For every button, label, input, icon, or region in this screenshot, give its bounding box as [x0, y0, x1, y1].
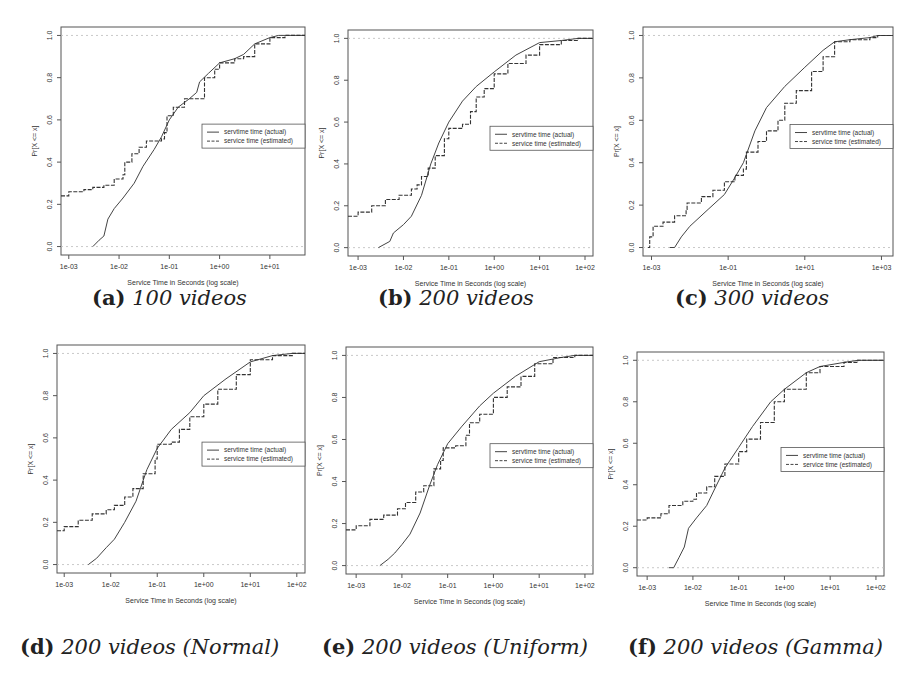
chart-f: 0.00.20.40.60.81.01e-031e-021e-011e+001e… — [608, 330, 918, 630]
y-tick-label: 1.0 — [333, 33, 340, 43]
x-tick-label: 1e+00 — [210, 263, 230, 270]
legend: servtime time (actual)service time (esti… — [490, 126, 593, 150]
legend: servtime time (actual)service time (esti… — [202, 442, 305, 466]
series-estimated — [346, 355, 593, 530]
y-axis-label: Pr[X <= x] — [27, 443, 35, 474]
caption-c: (c) 300 videos — [675, 285, 829, 310]
caption-label: (d) — [20, 634, 55, 659]
caption-text: 200 videos (Gamma) — [664, 635, 883, 659]
caption-label: (b) — [378, 285, 413, 310]
y-tick-label: 0.0 — [333, 243, 340, 253]
legend-entry: servtime time (actual) — [224, 128, 286, 136]
y-tick-label: 0.6 — [331, 435, 338, 445]
caption-label: (f) — [628, 634, 657, 659]
y-axis-label: Pr[X <= x] — [613, 126, 621, 157]
x-tick-label: 1e-01 — [439, 582, 457, 589]
y-tick-label: 0.6 — [333, 117, 340, 127]
figure: 0.00.20.40.60.81.01e-031e-021e-011e+001e… — [0, 0, 918, 683]
y-tick-label: 0.6 — [622, 438, 629, 448]
y-tick-label: 0.4 — [42, 475, 49, 485]
y-tick-label: 0.0 — [622, 563, 629, 573]
x-tick-label: 1e-03 — [60, 263, 78, 270]
y-tick-label: 0.0 — [628, 243, 635, 253]
x-tick-label: 1e+00 — [484, 264, 504, 271]
y-tick-label: 0.4 — [331, 477, 338, 487]
y-tick-label: 1.0 — [331, 350, 338, 360]
y-tick-label: 0.4 — [628, 158, 635, 168]
x-tick-label: 1e+03 — [872, 264, 892, 271]
caption-label: (e) — [322, 634, 355, 659]
y-tick-label: 0.8 — [46, 73, 53, 83]
legend-entry: service time (estimated) — [512, 140, 581, 148]
x-tick-label: 1e-03 — [349, 264, 367, 271]
legend-entry: service time (estimated) — [224, 137, 293, 145]
series-estimated — [61, 35, 305, 196]
x-tick-label: 1e+00 — [194, 581, 214, 588]
legend: servtime time (actual)service time (esti… — [490, 444, 593, 468]
caption-d: (d) 200 videos (Normal) — [20, 634, 279, 659]
legend-entry: servtime time (actual) — [812, 129, 874, 137]
caption-text: 200 videos (Uniform) — [362, 635, 588, 659]
legend-entry: servtime time (actual) — [224, 446, 286, 454]
y-tick-label: 0.8 — [628, 73, 635, 83]
x-tick-label: 1e+01 — [820, 584, 840, 591]
caption-f: (f) 200 videos (Gamma) — [628, 634, 883, 659]
legend-entry: service time (estimated) — [512, 457, 581, 465]
y-tick-label: 0.8 — [42, 391, 49, 401]
caption-text: 100 videos — [132, 286, 247, 310]
x-tick-label: 1e+01 — [529, 582, 549, 589]
x-tick-label: 1e-03 — [347, 582, 365, 589]
x-tick-label: 1e+01 — [240, 581, 260, 588]
chart-c: 0.00.20.40.60.81.01e-031e-011e+011e+03Se… — [608, 0, 918, 300]
y-axis-label: Pr[X <= x] — [318, 127, 326, 158]
y-tick-label: 0.8 — [622, 397, 629, 407]
legend-entry: service time (estimated) — [803, 461, 872, 469]
x-tick-label: 1e+00 — [484, 582, 504, 589]
y-tick-label: 1.0 — [628, 31, 635, 41]
y-axis-label: Pr[X <= x] — [608, 448, 615, 479]
caption-label: (c) — [675, 285, 708, 310]
x-tick-label: 1e-02 — [393, 582, 411, 589]
caption-text: 200 videos (Normal) — [61, 635, 279, 659]
y-tick-label: 0.2 — [42, 517, 49, 527]
y-tick-label: 1.0 — [46, 30, 53, 40]
x-tick-label: 1e+00 — [775, 584, 795, 591]
legend-entry: servtime time (actual) — [803, 452, 865, 460]
x-axis-label: Service Time in Seconds (log scale) — [705, 600, 816, 608]
legend-entry: servtime time (actual) — [512, 448, 574, 456]
caption-a: (a) 100 videos — [92, 285, 247, 310]
chart-d: 0.00.20.40.60.81.01e-031e-021e-011e+001e… — [0, 330, 310, 630]
x-tick-label: 1e-03 — [643, 264, 661, 271]
x-tick-label: 1e-01 — [719, 264, 737, 271]
x-tick-label: 1e+02 — [575, 582, 595, 589]
y-tick-label: 0.0 — [331, 561, 338, 571]
legend-entry: service time (estimated) — [224, 455, 293, 463]
y-tick-label: 0.6 — [46, 115, 53, 125]
x-axis-label: Service Time in Seconds (log scale) — [414, 598, 525, 606]
x-tick-label: 1e-03 — [638, 584, 656, 591]
x-tick-label: 1e+01 — [530, 264, 550, 271]
y-tick-label: 0.4 — [333, 159, 340, 169]
y-tick-label: 0.2 — [628, 200, 635, 210]
y-tick-label: 0.2 — [622, 521, 629, 531]
legend-entry: service time (estimated) — [812, 138, 881, 146]
x-tick-label: 1e-03 — [55, 581, 73, 588]
y-axis-label: Pr[X <= x] — [316, 445, 324, 476]
y-axis-label: Pr[X <= x] — [31, 125, 39, 156]
y-tick-label: 0.8 — [333, 75, 340, 85]
x-tick-label: 1e-02 — [110, 263, 128, 270]
y-tick-label: 0.6 — [628, 115, 635, 125]
chart-a: 0.00.20.40.60.81.01e-031e-021e-011e+001e… — [0, 0, 310, 300]
x-tick-label: 1e+02 — [575, 264, 595, 271]
x-axis-label: Service Time in Seconds (log scale) — [125, 597, 236, 605]
caption-label: (a) — [92, 285, 125, 310]
caption-b: (b) 200 videos — [378, 285, 534, 310]
x-tick-label: 1e-02 — [395, 264, 413, 271]
y-tick-label: 0.0 — [46, 242, 53, 252]
caption-text: 200 videos — [419, 286, 534, 310]
legend: servtime time (actual)service time (esti… — [202, 124, 305, 148]
x-tick-label: 1e-01 — [160, 263, 178, 270]
chart-e: 0.00.20.40.60.81.01e-031e-021e-011e+001e… — [300, 330, 610, 630]
legend-entry: servtime time (actual) — [512, 131, 574, 139]
y-tick-label: 0.4 — [46, 157, 53, 167]
